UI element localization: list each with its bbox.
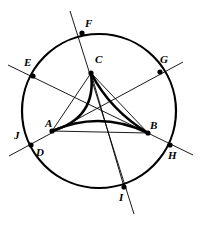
point-label-D: D <box>36 147 44 158</box>
vertex-dot-E <box>30 73 35 78</box>
geometry-figure: ABCDEFGHIJ <box>0 0 200 225</box>
vertex-dot-D <box>28 142 33 147</box>
vertex-dot-A <box>49 128 54 133</box>
point-label-E: E <box>24 57 31 68</box>
point-label-G: G <box>160 54 168 65</box>
vertex-dot-F <box>79 30 84 35</box>
point-label-H: H <box>168 150 177 161</box>
cevian-A-B <box>52 131 148 133</box>
figure-canvas <box>0 0 200 225</box>
vertex-dot-H <box>167 142 172 147</box>
vertex-dot-B <box>145 130 150 135</box>
vertex-dot-G <box>157 69 162 74</box>
point-label-B: B <box>150 120 157 131</box>
point-label-F: F <box>85 18 92 29</box>
point-label-A: A <box>45 118 52 129</box>
point-label-J: J <box>14 130 20 141</box>
vertex-dot-C <box>88 70 93 75</box>
point-label-I: I <box>119 192 123 203</box>
point-label-C: C <box>95 54 102 65</box>
vertex-dot-I <box>121 184 126 189</box>
